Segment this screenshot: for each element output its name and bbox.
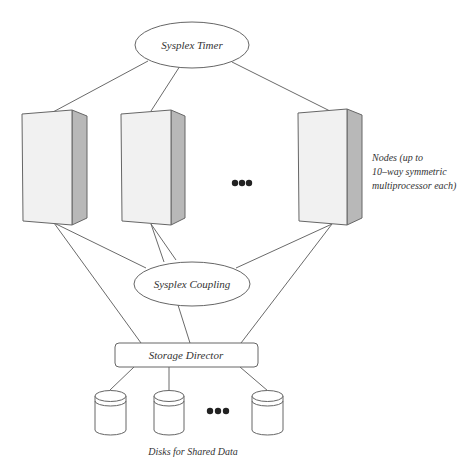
line-node3-storage — [241, 224, 332, 343]
node-1-side — [72, 110, 87, 225]
storage-director-label: Storage Director — [149, 349, 224, 361]
nodes-label-line-2: 10–way symmetric — [372, 165, 474, 179]
line-node2-coupling-a — [151, 224, 164, 262]
line-storage-disk1 — [110, 367, 134, 390]
disks-label: Disks for Shared Data — [147, 446, 237, 457]
node-3-front — [298, 109, 347, 225]
node-2 — [121, 110, 185, 225]
disk-2-icon — [154, 391, 184, 436]
line-storage-disk3 — [240, 367, 268, 391]
line-timer-node3 — [232, 62, 330, 111]
sysplex-coupling-label: Sysplex Coupling — [154, 278, 231, 290]
sysplex-diagram: Sysplex Timer Sysplex Coupling Storage D… — [0, 0, 474, 475]
node-3 — [298, 109, 362, 225]
sysplex-coupling: Sysplex Coupling — [134, 262, 250, 306]
sysplex-timer: Sysplex Timer — [135, 22, 249, 68]
line-node3-coupling — [236, 224, 332, 268]
disks-ellipsis-icon — [207, 408, 229, 414]
node-1 — [22, 110, 87, 225]
nodes-label-line-3: multiprocessor each) — [372, 179, 474, 193]
disk-3-icon — [252, 391, 283, 436]
line-node2-coupling-b — [151, 224, 176, 260]
nodes-ellipsis-icon — [232, 180, 252, 186]
node-2-side — [171, 110, 185, 225]
storage-director: Storage Director — [115, 343, 258, 367]
sysplex-timer-label: Sysplex Timer — [161, 39, 223, 51]
node-2-front — [121, 110, 171, 225]
line-coupling-storage — [178, 305, 190, 343]
line-timer-node1 — [53, 61, 148, 112]
node-1-front — [22, 110, 72, 225]
disk-1-icon — [95, 391, 126, 436]
node-3-side — [347, 109, 362, 225]
connection-lines — [53, 61, 332, 391]
line-timer-node2 — [151, 66, 180, 111]
nodes-label: Nodes (up to 10–way symmetric multiproce… — [372, 151, 474, 193]
nodes-label-line-1: Nodes (up to — [372, 151, 474, 165]
line-node1-coupling — [54, 223, 146, 268]
line-node1-storage — [54, 223, 141, 343]
